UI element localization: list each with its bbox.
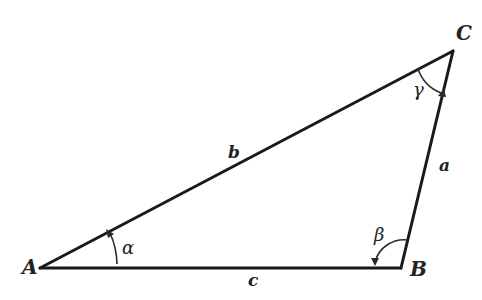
arc-arrowhead-icon <box>371 258 379 266</box>
vertex-label-b: B <box>409 257 427 281</box>
angle-label-beta: β <box>373 224 384 245</box>
angle-alpha-marker <box>106 229 117 264</box>
angle-label-alpha: α <box>122 237 134 258</box>
side-b-line <box>40 51 453 268</box>
side-label-b: b <box>228 142 240 162</box>
vertex-label-c: C <box>456 21 472 45</box>
side-label-a: a <box>439 155 450 175</box>
side-label-c: c <box>248 270 259 290</box>
triangle-diagram: A B C b a c α β γ <box>0 0 482 300</box>
vertex-label-a: A <box>20 255 38 279</box>
angle-label-gamma: γ <box>413 79 424 100</box>
